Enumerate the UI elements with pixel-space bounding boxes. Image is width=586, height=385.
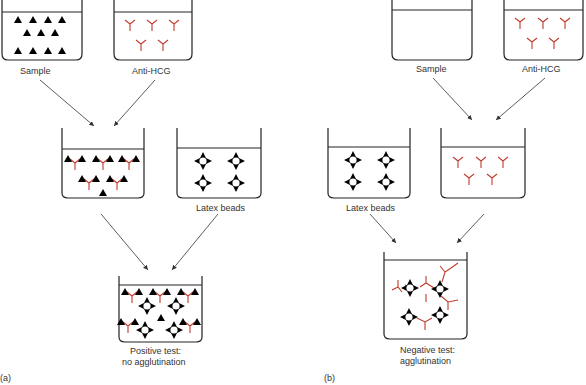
arrow-beads-to-result-a bbox=[172, 214, 218, 270]
mixed-beaker-a bbox=[62, 128, 144, 198]
arrow-beads-to-result-b bbox=[370, 214, 396, 243]
panel-label-a: (a) bbox=[0, 373, 11, 383]
latex-beads-label-b: Latex beads bbox=[346, 203, 395, 214]
diagram-canvas bbox=[0, 0, 586, 385]
mixed-beaker-b bbox=[441, 128, 525, 198]
sample-label-a: Sample bbox=[20, 66, 51, 77]
anti-hcg-label-a: Anti-HCG bbox=[132, 66, 171, 77]
arrow-sample-to-mix-b bbox=[433, 78, 472, 120]
result-beaker-b bbox=[384, 252, 467, 339]
result-label-b-line2: agglutination bbox=[400, 356, 451, 367]
anti-hcg-beaker-a bbox=[114, 0, 192, 60]
sample-beaker-b bbox=[392, 0, 472, 60]
result-label-a-line2: no agglutination bbox=[122, 357, 186, 368]
latex-beads-beaker-a bbox=[177, 128, 261, 198]
anti-hcg-beaker-b bbox=[504, 0, 583, 60]
anti-hcg-label-b: Anti-HCG bbox=[522, 64, 561, 75]
arrow-mix-to-result-a bbox=[101, 214, 148, 270]
result-label-a-line1: Positive test: bbox=[130, 346, 181, 357]
panel-label-b: (b) bbox=[324, 373, 335, 383]
result-beaker-a bbox=[117, 276, 202, 342]
arrow-mix-to-result-b bbox=[457, 214, 484, 243]
arrow-sample-to-mix-a bbox=[40, 80, 94, 126]
latex-beads-label-a: Latex beads bbox=[196, 203, 245, 214]
arrow-antihcg-to-mix-a bbox=[114, 80, 155, 126]
sample-beaker-a bbox=[2, 0, 82, 60]
latex-beads-beaker-b bbox=[328, 128, 410, 198]
sample-label-b: Sample bbox=[416, 64, 447, 75]
result-label-b-line1: Negative test: bbox=[400, 345, 455, 356]
arrow-antihcg-to-mix-b bbox=[496, 78, 545, 120]
